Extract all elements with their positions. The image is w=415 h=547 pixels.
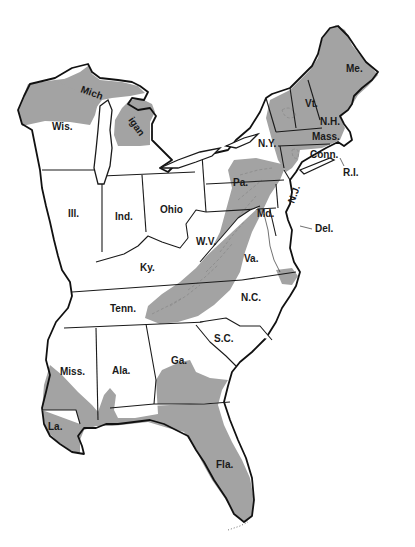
eastern-us-map: Wis. Mich igan Ill. Ind. Ohio Ky. Tenn. … (0, 0, 415, 547)
border-mich-ind-ohio (102, 172, 195, 176)
border-pa-nj (276, 184, 278, 208)
label-new-hampshire: N.H. (320, 116, 340, 127)
label-illinois: Ill. (68, 208, 79, 219)
border-ohio-ky-river (96, 236, 188, 262)
label-rhode-island: R.I. (343, 167, 359, 178)
label-delaware: Del. (315, 223, 334, 234)
label-south-carolina: S.C. (214, 333, 234, 344)
border-ny-nj (284, 170, 290, 180)
label-alabama: Ala. (112, 365, 131, 376)
label-new-jersey: N.J. (286, 183, 303, 204)
shade-gulf-coast (42, 360, 254, 522)
label-virginia: Va. (244, 253, 259, 264)
label-vermont: Vt. (305, 98, 318, 109)
border-ohio-wv (186, 210, 206, 238)
label-connecticut: Conn. (310, 149, 339, 160)
border-ohio-pa (202, 155, 206, 212)
label-west-virginia: W.V. (196, 236, 216, 247)
lake-ontario (226, 134, 258, 148)
florida-keys (228, 522, 248, 530)
border-miss-ala (96, 328, 98, 420)
label-ohio: Ohio (160, 204, 183, 215)
label-indiana: Ind. (115, 211, 133, 222)
label-wisconsin: Wis. (52, 121, 73, 132)
border-nc-sc (200, 318, 272, 340)
shaded-areas (18, 25, 378, 522)
lake-michigan (94, 100, 112, 184)
label-kentucky: Ky. (140, 262, 155, 273)
label-north-carolina: N.C. (241, 292, 261, 303)
label-massachusetts: Mass. (312, 131, 340, 142)
label-mississippi: Miss. (60, 366, 85, 377)
border-sc-ga (196, 325, 236, 366)
label-georgia: Ga. (171, 355, 187, 366)
label-florida: Fla. (216, 459, 233, 470)
delaware-leader (300, 226, 312, 229)
border-ala-ga (146, 324, 156, 404)
label-maryland: Md. (257, 208, 274, 219)
border-tenn-south (64, 322, 206, 328)
label-maine: Me. (346, 63, 363, 74)
label-louisiana: La. (48, 421, 63, 432)
label-tennessee: Tenn. (110, 303, 136, 314)
rhode-island-leader (340, 158, 344, 166)
border-ind-ohio (142, 175, 146, 232)
label-pennsylvania: Pa. (233, 177, 248, 188)
chesapeake-bay (264, 214, 280, 272)
label-new-york: N.Y. (258, 138, 277, 149)
